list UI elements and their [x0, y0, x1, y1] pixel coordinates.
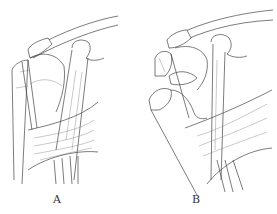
panel-label-b: B [192, 193, 200, 206]
shoulder-drawing-a [0, 0, 140, 195]
panel-label-a: A [53, 193, 61, 206]
anatomical-figure: A [0, 0, 277, 214]
shoulder-drawing-b [137, 0, 277, 195]
panel-b: B [137, 0, 277, 214]
panel-a: A [0, 0, 140, 214]
